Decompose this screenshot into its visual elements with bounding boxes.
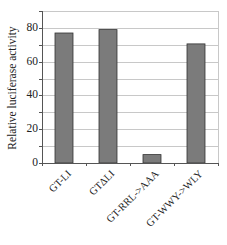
bar-3 — [187, 44, 205, 163]
y-axis-label-text: Relative luciferase activity — [6, 26, 18, 149]
y-tick-80: 80 — [18, 21, 38, 33]
bar-1 — [99, 30, 117, 163]
bars — [55, 30, 205, 163]
bar-2 — [143, 155, 161, 163]
y-tick-0: 0 — [18, 156, 38, 168]
y-tick-60: 60 — [18, 55, 38, 67]
y-tick-40: 40 — [18, 88, 38, 100]
y-tick-20: 20 — [18, 122, 38, 134]
bar-0 — [55, 33, 73, 163]
